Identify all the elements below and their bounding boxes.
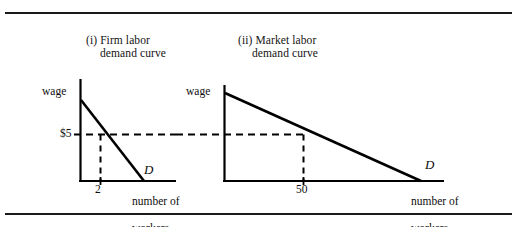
- market-demand-curve: [225, 93, 421, 181]
- market-x-axis-label: number of workers: [411, 181, 459, 227]
- market-x-axis-label-line2: workers: [411, 222, 448, 228]
- firm-y-axis-label: wage: [42, 85, 66, 97]
- market-demand-curve-label: D: [425, 157, 434, 173]
- firm-demand-curve-label: D: [144, 162, 153, 178]
- firm-x-axis-label: number of workers: [132, 181, 180, 227]
- market-x-axis-label-line1: number of: [411, 195, 459, 207]
- firm-x-axis-label-line2: workers: [132, 222, 169, 228]
- firm-panel-graphics: [74, 79, 176, 185]
- figure-container: (i) Firm labor demand curve (ii) Market …: [0, 0, 520, 227]
- firm-x-axis-label-line1: number of: [132, 195, 180, 207]
- firm-quantity-tick-label: 2: [95, 183, 101, 195]
- market-panel-graphics: [176, 85, 444, 185]
- firm-price-label: $5: [60, 127, 72, 139]
- market-y-axis-label: wage: [186, 85, 210, 97]
- market-quantity-tick-label: 50: [296, 183, 308, 195]
- firm-demand-curve: [81, 100, 144, 181]
